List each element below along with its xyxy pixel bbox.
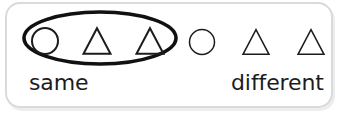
triangle-icon bbox=[243, 30, 269, 55]
diagram-canvas bbox=[0, 0, 340, 118]
different-group-shapes bbox=[190, 30, 325, 55]
same-group-ellipse bbox=[24, 12, 176, 64]
different-group-label: different bbox=[231, 72, 324, 94]
triangle-icon bbox=[298, 30, 324, 55]
triangle-icon bbox=[137, 28, 164, 54]
circle-icon bbox=[190, 30, 215, 55]
circle-icon bbox=[32, 28, 58, 54]
triangle-icon bbox=[84, 28, 111, 54]
same-group-label: same bbox=[29, 72, 89, 94]
same-group-shapes bbox=[32, 28, 164, 54]
figure-root: same different bbox=[0, 0, 340, 118]
